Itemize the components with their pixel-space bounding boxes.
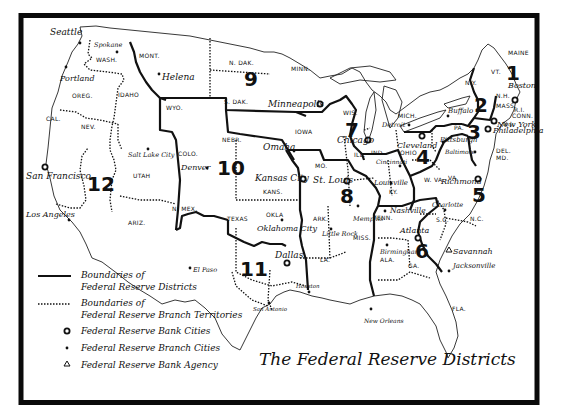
svg-text:MO.: MO.	[315, 162, 327, 169]
svg-text:Nashville: Nashville	[389, 206, 426, 215]
svg-text:UTAH: UTAH	[133, 172, 150, 179]
svg-text:Helena: Helena	[161, 72, 195, 82]
new-york-marker	[491, 118, 496, 123]
svg-text:Seattle: Seattle	[50, 27, 82, 37]
svg-text:Boundaries of: Boundaries of	[80, 270, 146, 280]
atlanta-marker	[415, 235, 420, 240]
legend-bank-city-icon	[64, 328, 69, 333]
svg-text:DEL.: DEL.	[496, 147, 511, 154]
svg-text:Cincinnati: Cincinnati	[376, 158, 407, 165]
svg-text:PA.: PA.	[454, 124, 464, 131]
svg-text:IND.: IND.	[371, 149, 385, 156]
svg-text:St. Louis: St. Louis	[313, 175, 354, 185]
lake-superior	[330, 66, 396, 84]
svg-text:N. MEX.: N. MEX.	[172, 205, 197, 212]
svg-text:2: 2	[474, 93, 488, 117]
svg-text:Cleveland: Cleveland	[397, 141, 437, 150]
svg-text:New Orleans: New Orleans	[363, 317, 404, 324]
svg-text:5: 5	[472, 183, 486, 207]
svg-text:OHIO: OHIO	[400, 149, 417, 156]
svg-text:Federal Reserve Branch Cities: Federal Reserve Branch Cities	[80, 343, 221, 353]
svg-text:Federal Reserve Branch Territo: Federal Reserve Branch Territories	[80, 310, 243, 320]
svg-text:8: 8	[340, 184, 354, 208]
svg-text:KY.: KY.	[389, 188, 398, 195]
svg-text:Federal Reserve Bank Cities: Federal Reserve Bank Cities	[80, 326, 211, 336]
svg-text:Salt Lake City: Salt Lake City	[128, 151, 175, 159]
svg-text:El Paso: El Paso	[192, 266, 217, 274]
svg-text:Birmingham: Birmingham	[379, 248, 421, 256]
svg-text:WIS.: WIS.	[343, 109, 358, 116]
svg-text:Federal Reserve Districts: Federal Reserve Districts	[80, 282, 197, 292]
legend-branch-city-icon	[66, 347, 69, 350]
svg-text:TEXAS: TEXAS	[226, 215, 248, 222]
svg-text:MONT.: MONT.	[139, 52, 160, 59]
svg-text:Baltimore: Baltimore	[444, 148, 475, 155]
svg-text:ILL.: ILL.	[354, 151, 366, 158]
svg-text:Pittsburgh: Pittsburgh	[439, 136, 478, 144]
svg-text:COLO.: COLO.	[178, 150, 198, 157]
savannah-agency-marker	[446, 247, 452, 252]
svg-text:Jacksonville: Jacksonville	[451, 262, 495, 270]
svg-text:NEV.: NEV.	[81, 123, 96, 130]
svg-text:S. DAK.: S. DAK.	[224, 98, 248, 105]
svg-text:N.Y.: N.Y.	[465, 79, 477, 86]
map-main: WASH. OREG. CAL. NEV. IDAHO MONT. WYO. U…	[0, 0, 562, 416]
svg-text:Houston: Houston	[295, 283, 320, 289]
svg-text:GA.: GA.	[408, 262, 419, 269]
svg-text:Oklahoma City: Oklahoma City	[257, 224, 317, 233]
svg-text:MINN.: MINN.	[291, 65, 310, 72]
svg-text:Boundaries of: Boundaries of	[80, 298, 146, 308]
svg-text:ARK.: ARK.	[313, 215, 328, 222]
svg-text:CONN.: CONN.	[512, 112, 533, 119]
svg-text:VT.: VT.	[491, 68, 501, 75]
svg-text:N.C.: N.C.	[470, 215, 484, 222]
svg-text:Chicago: Chicago	[337, 135, 375, 145]
svg-text:N.H.: N.H.	[496, 92, 510, 99]
svg-text:12: 12	[87, 172, 115, 196]
svg-text:9: 9	[244, 67, 258, 91]
svg-text:Atlanta: Atlanta	[399, 226, 430, 235]
svg-text:Boston: Boston	[507, 81, 536, 90]
svg-text:KANS.: KANS.	[263, 188, 283, 195]
svg-text:LA.: LA.	[320, 256, 330, 263]
svg-text:Omaha: Omaha	[263, 142, 295, 152]
legend: Boundaries of Federal Reserve Districts …	[38, 270, 243, 370]
svg-text:Detroit: Detroit	[381, 121, 406, 129]
svg-text:WASH.: WASH.	[96, 56, 117, 63]
map-title: The Federal Reserve Districts	[259, 349, 516, 369]
svg-text:Philadelphia: Philadelphia	[492, 126, 544, 135]
svg-text:WYO.: WYO.	[166, 104, 183, 111]
svg-text:Los Angeles: Los Angeles	[25, 210, 75, 219]
dallas-marker	[284, 260, 289, 265]
svg-text:Dallas: Dallas	[274, 250, 304, 260]
svg-text:Little Rock: Little Rock	[321, 230, 358, 238]
svg-text:San Antonio: San Antonio	[253, 306, 288, 312]
svg-text:CAL.: CAL.	[46, 115, 61, 122]
philadelphia-marker	[485, 126, 490, 131]
svg-text:Buffalo: Buffalo	[447, 107, 473, 115]
svg-text:MD.: MD.	[496, 154, 509, 161]
svg-text:ALA.: ALA.	[380, 256, 395, 263]
svg-text:Denver: Denver	[180, 163, 212, 172]
svg-text:Memphis: Memphis	[352, 215, 384, 223]
svg-text:IOWA: IOWA	[295, 128, 313, 135]
svg-text:FLA.: FLA.	[452, 305, 466, 312]
svg-text:S.C.: S.C.	[436, 216, 449, 223]
cleveland-marker	[419, 133, 424, 138]
svg-text:Richmond: Richmond	[440, 177, 482, 186]
legend-agency-icon	[64, 361, 70, 366]
svg-text:Kansas City: Kansas City	[254, 173, 310, 183]
svg-text:NEBR.: NEBR.	[222, 136, 242, 143]
svg-text:San Francisco: San Francisco	[26, 171, 91, 181]
svg-text:OREG.: OREG.	[72, 92, 93, 99]
san-francisco-marker	[42, 164, 47, 169]
svg-text:IDAHO: IDAHO	[118, 91, 139, 98]
svg-text:10: 10	[217, 156, 245, 180]
svg-text:Minneapolis: Minneapolis	[267, 99, 324, 109]
svg-text:OKLA: OKLA	[266, 211, 284, 218]
svg-text:Federal Reserve Bank Agency: Federal Reserve Bank Agency	[80, 360, 219, 370]
svg-text:Louisville: Louisville	[373, 179, 408, 187]
svg-text:Savannah: Savannah	[453, 247, 493, 256]
svg-text:MICH.: MICH.	[398, 112, 417, 119]
svg-text:N. DAK.: N. DAK.	[229, 59, 254, 66]
